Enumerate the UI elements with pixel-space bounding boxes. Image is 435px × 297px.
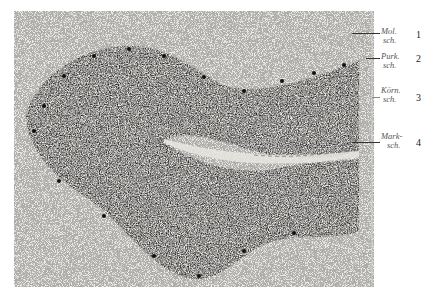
label-molecular-layer: Mol. sch. [381, 27, 397, 45]
label-number-3: 3 [416, 92, 421, 103]
leader-line-4 [352, 142, 380, 143]
label-medullary-layer: Mark- sch. [381, 132, 402, 150]
micrograph-plate [14, 11, 374, 287]
leader-line-1 [352, 33, 380, 34]
tissue-illustration [14, 11, 374, 287]
leader-line-3 [372, 97, 380, 98]
label-purkinje-layer: Purk. sch. [381, 52, 400, 70]
label-number-1: 1 [416, 29, 421, 40]
label-granular-layer: Körn. sch. [381, 86, 401, 104]
leader-line-2 [366, 58, 380, 59]
label-number-4: 4 [416, 137, 421, 148]
label-number-2: 2 [416, 53, 421, 64]
